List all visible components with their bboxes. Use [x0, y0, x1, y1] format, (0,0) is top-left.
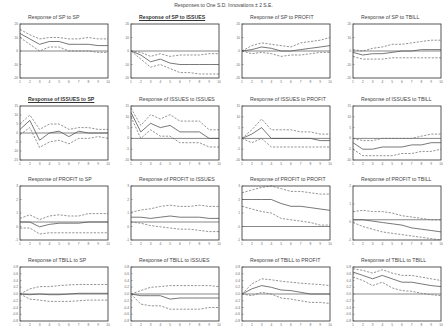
svg-text:1: 1 — [241, 80, 243, 84]
svg-text:3: 3 — [127, 184, 129, 188]
svg-text:0: 0 — [349, 220, 351, 224]
svg-text:5: 5 — [58, 80, 60, 84]
svg-text:1: 1 — [349, 202, 351, 206]
svg-text:9: 9 — [430, 323, 432, 327]
svg-text:0.4: 0.4 — [125, 279, 130, 283]
irf-panel: Response of SP to TBILL20100-10-20123456… — [341, 14, 447, 94]
lower-band-line — [353, 277, 441, 296]
irf-panel: Response of SP to SP20100-10-20123456789… — [8, 14, 118, 94]
svg-text:10: 10 — [125, 36, 129, 40]
svg-text:6: 6 — [179, 323, 181, 327]
svg-text:5: 5 — [280, 323, 282, 327]
svg-text:7: 7 — [411, 162, 413, 166]
irf-panel: Response of PROFIT to ISSUES3210-1123456… — [119, 176, 229, 256]
svg-text:6: 6 — [290, 80, 292, 84]
svg-text:1: 1 — [130, 242, 132, 246]
svg-text:0.2: 0.2 — [14, 285, 19, 289]
svg-text:2: 2 — [29, 323, 31, 327]
svg-text:10: 10 — [125, 115, 129, 119]
svg-text:-0.4: -0.4 — [13, 306, 19, 310]
svg-text:10: 10 — [328, 80, 332, 84]
svg-text:6: 6 — [401, 80, 403, 84]
svg-text:-10: -10 — [124, 63, 129, 67]
svg-text:-0.4: -0.4 — [346, 306, 352, 310]
irf-plot: 20100-10-2012345678910 — [230, 22, 332, 84]
svg-text:4: 4 — [159, 80, 161, 84]
irf-panel: Response of TBILL to TBILL0.80.60.40.20.… — [341, 257, 447, 334]
response-line — [20, 34, 108, 46]
svg-text:3: 3 — [261, 242, 263, 246]
svg-text:1: 1 — [19, 242, 21, 246]
svg-text:6: 6 — [179, 162, 181, 166]
lower-band-line — [131, 117, 219, 147]
svg-text:4: 4 — [159, 323, 161, 327]
panel-title: Response of ISSUES to TBILL — [361, 96, 447, 102]
svg-text:0: 0 — [16, 49, 18, 53]
svg-text:2: 2 — [362, 80, 364, 84]
svg-text:-10: -10 — [235, 158, 240, 162]
svg-text:6: 6 — [68, 80, 70, 84]
svg-text:7: 7 — [189, 323, 191, 327]
svg-text:7: 7 — [189, 80, 191, 84]
svg-text:-20: -20 — [13, 76, 18, 80]
svg-text:0.4: 0.4 — [236, 279, 241, 283]
svg-text:9: 9 — [319, 162, 321, 166]
svg-text:1: 1 — [352, 162, 354, 166]
response-line — [242, 200, 330, 211]
svg-text:0.6: 0.6 — [125, 272, 130, 276]
svg-text:-0.2: -0.2 — [124, 299, 130, 303]
upper-band-line — [20, 214, 108, 220]
svg-text:2: 2 — [251, 80, 253, 84]
irf-plot: 3210-112345678910 — [8, 184, 110, 246]
svg-text:8: 8 — [421, 323, 423, 327]
svg-text:4: 4 — [270, 323, 272, 327]
svg-text:0.0: 0.0 — [236, 292, 241, 296]
svg-text:8: 8 — [310, 242, 312, 246]
svg-text:5: 5 — [280, 80, 282, 84]
svg-text:5: 5 — [58, 162, 60, 166]
svg-text:10: 10 — [106, 242, 110, 246]
svg-text:0.2: 0.2 — [347, 285, 352, 289]
svg-text:6: 6 — [290, 323, 292, 327]
lower-band-line — [353, 149, 441, 156]
svg-text:6: 6 — [290, 242, 292, 246]
svg-text:8: 8 — [199, 80, 201, 84]
svg-text:7: 7 — [78, 162, 80, 166]
svg-text:10: 10 — [328, 242, 332, 246]
svg-text:5: 5 — [16, 122, 18, 126]
svg-text:2: 2 — [362, 162, 364, 166]
irf-plot: 151050-5-1012345678910 — [341, 104, 443, 166]
svg-text:0.8: 0.8 — [236, 265, 241, 269]
svg-text:1: 1 — [241, 242, 243, 246]
svg-text:3: 3 — [39, 242, 41, 246]
svg-text:4: 4 — [381, 80, 383, 84]
svg-text:9: 9 — [208, 162, 210, 166]
svg-text:0.0: 0.0 — [125, 292, 130, 296]
irf-plot: 20100-10-2012345678910 — [341, 22, 443, 84]
svg-text:-1: -1 — [237, 238, 240, 242]
svg-text:8: 8 — [310, 80, 312, 84]
svg-text:0.6: 0.6 — [347, 272, 352, 276]
svg-text:0: 0 — [16, 131, 18, 135]
svg-text:-10: -10 — [13, 149, 18, 153]
svg-text:9: 9 — [430, 242, 432, 246]
svg-text:0.2: 0.2 — [236, 285, 241, 289]
svg-text:8: 8 — [310, 162, 312, 166]
svg-text:10: 10 — [328, 323, 332, 327]
svg-text:0.6: 0.6 — [14, 272, 19, 276]
svg-text:0.8: 0.8 — [125, 265, 130, 269]
svg-text:7: 7 — [189, 162, 191, 166]
svg-text:-10: -10 — [235, 63, 240, 67]
svg-text:10: 10 — [217, 323, 221, 327]
svg-text:-0.8: -0.8 — [13, 319, 19, 323]
svg-text:3: 3 — [238, 184, 240, 188]
svg-text:1: 1 — [241, 162, 243, 166]
svg-text:8: 8 — [421, 242, 423, 246]
svg-text:2: 2 — [251, 323, 253, 327]
svg-text:-0.2: -0.2 — [346, 299, 352, 303]
svg-text:3: 3 — [150, 80, 152, 84]
lower-band-line — [353, 223, 441, 241]
svg-text:1: 1 — [130, 162, 132, 166]
svg-text:6: 6 — [68, 162, 70, 166]
svg-text:4: 4 — [159, 242, 161, 246]
